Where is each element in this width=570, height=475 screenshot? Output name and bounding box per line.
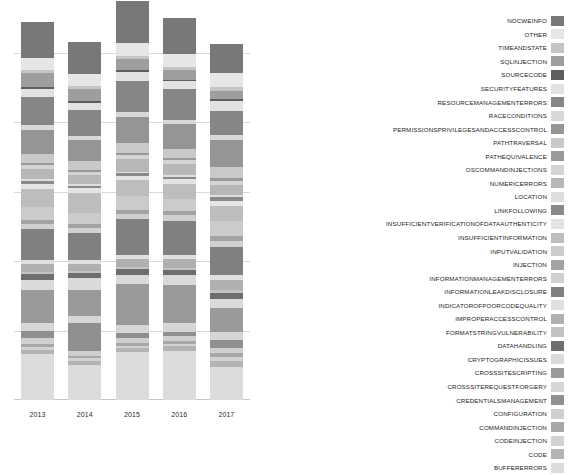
bar-segment[interactable] — [163, 89, 196, 119]
bar-segment[interactable] — [210, 340, 243, 347]
bar-segment[interactable] — [68, 316, 101, 324]
legend-item[interactable]: COMMANDINJECTION — [244, 420, 564, 434]
legend-item[interactable]: INFORMATIONLEAKDISCLOSURE — [244, 285, 564, 299]
bar-stack-2015[interactable] — [116, 1, 149, 400]
bar-segment[interactable] — [68, 365, 101, 401]
legend-item[interactable]: OTHER — [244, 28, 564, 42]
bar-segment[interactable] — [163, 184, 196, 199]
bar-segment[interactable] — [163, 149, 196, 159]
bar-segment[interactable] — [210, 185, 243, 195]
legend-item[interactable]: CONFIGURATION — [244, 407, 564, 421]
legend-item[interactable]: RESOURCEMANAGEMENTERRORS — [244, 95, 564, 109]
bar-segment[interactable] — [68, 278, 101, 290]
bar-segment[interactable] — [210, 206, 243, 221]
legend-item[interactable]: CRYPTOGRAPHICISSUES — [244, 353, 564, 367]
bar-segment[interactable] — [68, 74, 101, 86]
legend-item[interactable]: INDICATOROFPOORCODEQUALITY — [244, 298, 564, 312]
bar-segment[interactable] — [163, 18, 196, 54]
bar-stack-2013[interactable] — [21, 22, 54, 400]
legend-item[interactable]: FORMATSTRINGVULNERABILITY — [244, 326, 564, 340]
legend-item[interactable]: OSCOMMANDINJECTIONS — [244, 163, 564, 177]
legend-item[interactable]: DATAHANDLING — [244, 339, 564, 353]
legend-item[interactable]: LOCATION — [244, 190, 564, 204]
bar-segment[interactable] — [210, 91, 243, 99]
bar-segment[interactable] — [21, 169, 54, 180]
bar-segment[interactable] — [163, 351, 196, 400]
bar-segment[interactable] — [210, 332, 243, 340]
bar-segment[interactable] — [116, 59, 149, 70]
bar-segment[interactable] — [163, 199, 196, 211]
bar-segment[interactable] — [116, 159, 149, 171]
bar-segment[interactable] — [210, 221, 243, 236]
bar-segment[interactable] — [210, 247, 243, 276]
bar-segment[interactable] — [163, 323, 196, 332]
bar-segment[interactable] — [21, 280, 54, 290]
legend-item[interactable]: INSUFFICIENTINFORMATION — [244, 231, 564, 245]
legend-item[interactable]: NOCWEINFO — [244, 14, 564, 28]
bar-segment[interactable] — [163, 285, 196, 323]
bar-segment[interactable] — [116, 275, 149, 284]
bar-segment[interactable] — [210, 367, 243, 400]
legend-item[interactable]: PATHEQUIVALENCE — [244, 149, 564, 163]
bar-segment[interactable] — [116, 180, 149, 196]
bar-segment[interactable] — [68, 193, 101, 213]
bar-segment[interactable] — [68, 103, 101, 110]
legend-item[interactable]: INPUTVALIDATION — [244, 244, 564, 258]
legend-item[interactable]: CODEINJECTION — [244, 434, 564, 448]
bar-stack-2014[interactable] — [68, 42, 101, 400]
bar-segment[interactable] — [21, 73, 54, 87]
bar-segment[interactable] — [68, 161, 101, 169]
bar-segment[interactable] — [21, 154, 54, 163]
bar-segment[interactable] — [116, 196, 149, 210]
bar-segment[interactable] — [21, 89, 54, 97]
bar-segment[interactable] — [21, 58, 54, 70]
bar-segment[interactable] — [68, 175, 101, 184]
bar-segment[interactable] — [21, 97, 54, 126]
legend-item[interactable]: CROSSSITESCRIPTING — [244, 366, 564, 380]
bar-segment[interactable] — [116, 352, 149, 400]
bar-segment[interactable] — [210, 308, 243, 333]
legend-item[interactable]: TIMEANDSTATE — [244, 41, 564, 55]
bar-segment[interactable] — [68, 89, 101, 101]
legend-item[interactable]: INFORMATIONMANAGEMENTERRORS — [244, 271, 564, 285]
legend-item[interactable]: NUMERICERRORS — [244, 177, 564, 191]
bar-segment[interactable] — [116, 81, 149, 113]
bar-segment[interactable] — [68, 42, 101, 74]
bar-segment[interactable] — [210, 73, 243, 87]
bar-segment[interactable] — [21, 331, 54, 338]
bar-segment[interactable] — [163, 164, 196, 176]
bar-segment[interactable] — [116, 43, 149, 56]
legend-item[interactable]: CREDENTIALSMANAGEMENT — [244, 393, 564, 407]
bar-segment[interactable] — [21, 354, 54, 400]
bar-segment[interactable] — [68, 323, 101, 351]
legend-item[interactable]: PERMISSIONSPRIVILEGESANDACCESSCONTROL — [244, 122, 564, 136]
bar-segment[interactable] — [68, 264, 101, 271]
bar-segment[interactable] — [210, 44, 243, 73]
bar-stack-2016[interactable] — [163, 18, 196, 400]
bar-segment[interactable] — [163, 259, 196, 268]
bar-segment[interactable] — [210, 101, 243, 110]
bar-segment[interactable] — [116, 219, 149, 255]
bar-segment[interactable] — [116, 325, 149, 333]
legend-item[interactable]: LINKFOLLOWING — [244, 204, 564, 218]
bar-segment[interactable] — [21, 229, 54, 259]
legend-item[interactable]: IMPROPERACCESSCONTROL — [244, 312, 564, 326]
bar-segment[interactable] — [21, 22, 54, 58]
legend-item[interactable]: CODE — [244, 448, 564, 462]
bar-segment[interactable] — [210, 280, 243, 290]
bar-segment[interactable] — [21, 264, 54, 272]
legend-item[interactable]: INJECTION — [244, 258, 564, 272]
bar-segment[interactable] — [21, 207, 54, 220]
bar-segment[interactable] — [163, 124, 196, 149]
bar-segment[interactable] — [21, 290, 54, 322]
legend-item[interactable]: SOURCECODE — [244, 68, 564, 82]
bar-segment[interactable] — [21, 189, 54, 207]
bar-segment[interactable] — [163, 70, 196, 80]
bar-segment[interactable] — [68, 233, 101, 260]
bar-segment[interactable] — [116, 1, 149, 43]
bar-stack-2017[interactable] — [210, 43, 243, 400]
bar-segment[interactable] — [68, 213, 101, 225]
bar-segment[interactable] — [116, 143, 149, 153]
legend-item[interactable]: SQLINJECTION — [244, 55, 564, 69]
bar-segment[interactable] — [163, 275, 196, 285]
